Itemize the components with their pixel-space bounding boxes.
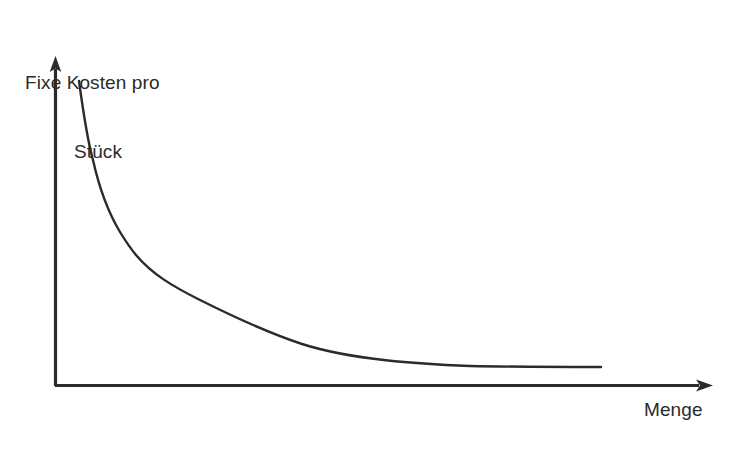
y-axis-label-line-1: Fixe Kosten pro <box>25 71 255 94</box>
x-axis-label: Menge <box>644 398 703 421</box>
chart-figure: Fixe Kosten pro Stück Menge <box>0 0 739 450</box>
y-axis-label-line-2: Stück <box>25 140 255 163</box>
y-axis-label: Fixe Kosten pro Stück <box>25 25 255 209</box>
